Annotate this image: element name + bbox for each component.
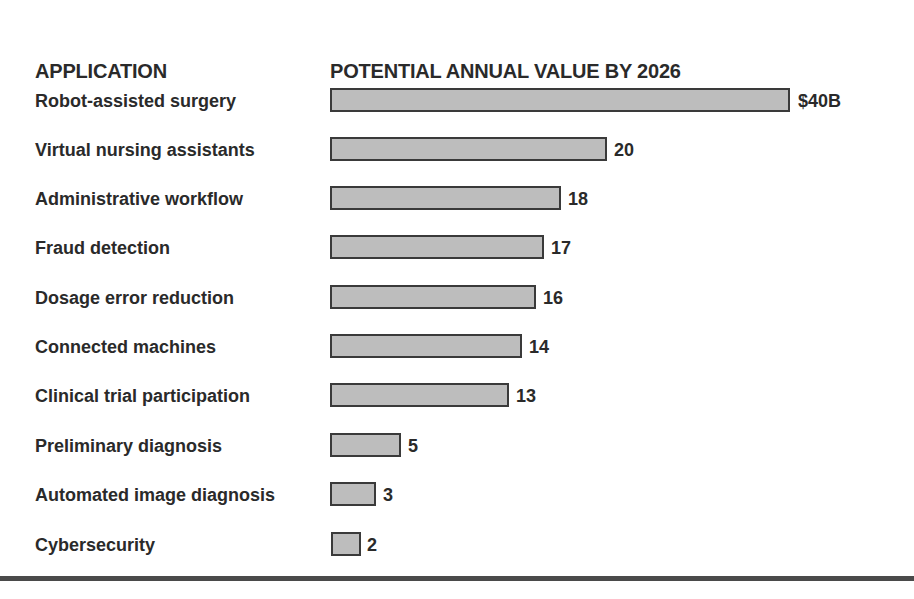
value-label: 3 [383, 480, 393, 510]
category-label: Dosage error reduction [35, 283, 234, 313]
bar [331, 532, 361, 556]
category-label: Administrative workflow [35, 184, 243, 214]
bar [330, 334, 522, 358]
category-label: Connected machines [35, 332, 216, 362]
bar [330, 383, 509, 407]
bar-row: Administrative workflow18 [0, 184, 914, 214]
category-label: Automated image diagnosis [35, 480, 275, 510]
bar-row: Fraud detection17 [0, 233, 914, 263]
bar-row: Cybersecurity2 [0, 530, 914, 560]
category-label: Preliminary diagnosis [35, 431, 222, 461]
bar [330, 186, 561, 210]
category-label: Virtual nursing assistants [35, 135, 255, 165]
value-label: 20 [614, 135, 634, 165]
category-label: Fraud detection [35, 233, 170, 263]
value-label: $40B [798, 86, 841, 116]
category-label: Robot-assisted surgery [35, 86, 236, 116]
value-label: 13 [516, 381, 536, 411]
bar-row: Preliminary diagnosis5 [0, 431, 914, 461]
bottom-divider [0, 576, 914, 581]
value-label: 2 [367, 530, 377, 560]
bar-row: Automated image diagnosis3 [0, 480, 914, 510]
value-label: 18 [568, 184, 588, 214]
bar-row: Virtual nursing assistants20 [0, 135, 914, 165]
value-label: 5 [408, 431, 418, 461]
bar [330, 433, 401, 457]
bar-row: Connected machines14 [0, 332, 914, 362]
value-label: 14 [529, 332, 549, 362]
header-value: POTENTIAL ANNUAL VALUE BY 2026 [330, 60, 681, 83]
category-label: Clinical trial participation [35, 381, 250, 411]
bar [330, 137, 607, 161]
bar [330, 285, 536, 309]
bar [330, 482, 376, 506]
header-application: APPLICATION [35, 60, 167, 83]
value-label: 17 [551, 233, 571, 263]
value-label: 16 [543, 283, 563, 313]
bar-row: Clinical trial participation13 [0, 381, 914, 411]
category-label: Cybersecurity [35, 530, 155, 560]
bar-row: Dosage error reduction16 [0, 283, 914, 313]
bar [330, 235, 544, 259]
bar-row: Robot-assisted surgery$40B [0, 86, 914, 116]
bar [330, 88, 790, 112]
